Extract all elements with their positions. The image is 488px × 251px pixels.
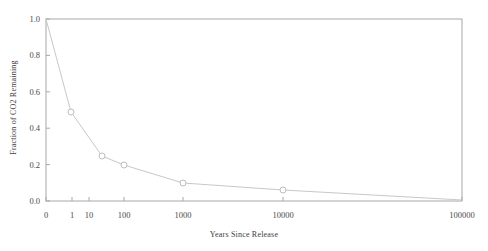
x-axis-ticks [46,197,462,201]
data-series-markers [68,109,286,193]
data-series-line [46,19,462,200]
chart-figure: 0110100100010000100000 0.00.20.40.60.81.… [0,0,488,251]
series-marker [99,153,105,159]
plot-border [46,19,462,201]
x-axis-title: Years Since Release [0,230,488,239]
series-polyline [46,19,462,200]
series-marker [180,180,186,186]
x-tick-label: 100 [94,210,154,220]
x-tick-label: 1000 [153,210,213,220]
x-tick-label: 100000 [432,210,488,220]
y-axis-ticks [46,19,50,201]
x-tick-label: 10000 [253,210,313,220]
series-marker [68,109,74,115]
y-axis-title: Fraction of CO2 Remaining [9,60,18,155]
series-marker [121,162,127,168]
series-marker [280,187,286,193]
y-axis-title-wrap: Fraction of CO2 Remaining [6,0,20,215]
axis-frame [46,19,462,201]
